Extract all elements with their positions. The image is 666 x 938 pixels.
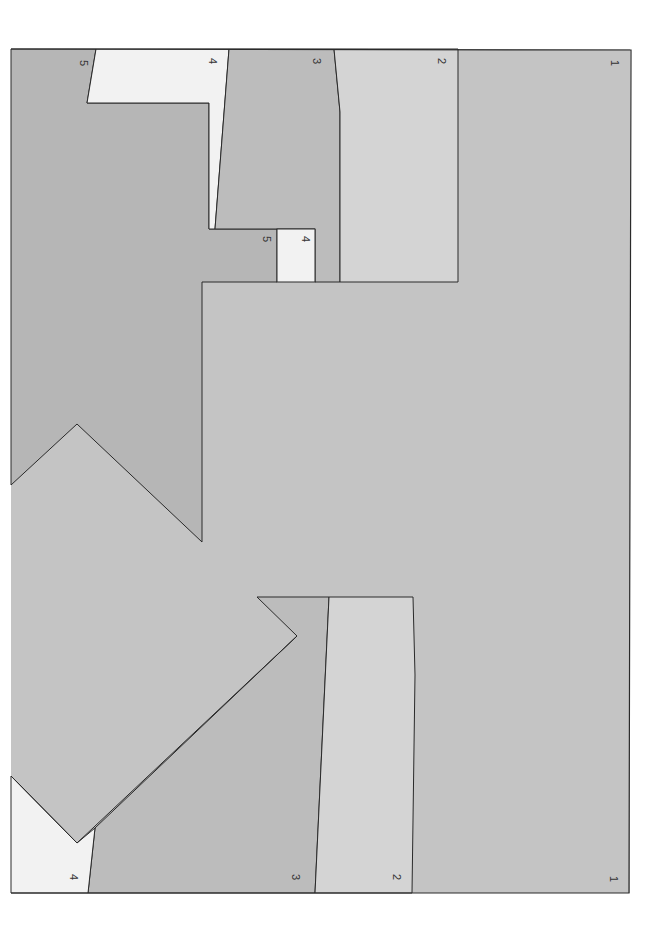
cross-section-diagram: 5 4 3 2 1 5 4 4 3 2 1 <box>0 0 666 938</box>
unit-2-lower-region <box>315 597 415 893</box>
label-top-3: 3 <box>311 58 323 64</box>
unit-2-upper-region <box>334 49 458 282</box>
label-bottom-2: 2 <box>391 874 403 880</box>
label-inset-5: 5 <box>261 236 273 242</box>
label-bottom-4: 4 <box>68 874 80 880</box>
label-inset-4: 4 <box>300 236 312 242</box>
label-bottom-3: 3 <box>290 874 302 880</box>
label-top-1: 1 <box>609 60 621 66</box>
label-top-2: 2 <box>436 58 448 64</box>
label-top-4: 4 <box>207 58 219 64</box>
label-top-5: 5 <box>78 60 90 66</box>
label-bottom-1: 1 <box>608 876 620 882</box>
